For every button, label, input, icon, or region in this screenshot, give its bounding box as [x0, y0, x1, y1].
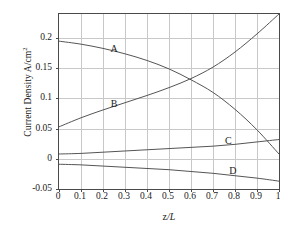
curve-lines — [59, 14, 279, 189]
y-axis-title-exponent: 2 — [21, 47, 28, 50]
curve-d — [59, 164, 279, 181]
curve-a — [59, 41, 279, 154]
curve-label-c: C — [225, 135, 232, 146]
y-tick-mark — [56, 189, 59, 190]
curve-label-d: D — [229, 164, 236, 175]
curve-label-a: A — [110, 43, 117, 54]
chart-figure: Current Density A/cm2 ABCD 0.20.150.10.0… — [0, 0, 300, 233]
y-tick-label: 0.15 — [18, 62, 52, 72]
plot-area: ABCD — [58, 13, 280, 190]
curve-c — [59, 140, 279, 154]
x-axis-title: z/L — [58, 211, 280, 222]
x-axis-title-slash-l: /L — [167, 211, 175, 222]
curve-label-b: B — [111, 98, 118, 109]
y-tick-label: 0.05 — [18, 123, 52, 133]
y-tick-label: 0.1 — [18, 92, 52, 102]
y-tick-label: 0.2 — [18, 32, 52, 42]
curve-b — [59, 14, 279, 127]
x-tick-label: 1 — [265, 191, 291, 201]
y-tick-label: 0 — [18, 153, 52, 163]
